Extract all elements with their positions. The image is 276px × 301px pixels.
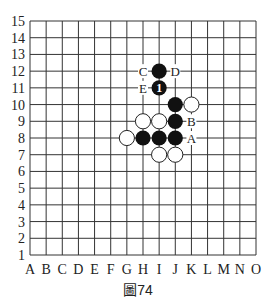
figure-caption: 圖74 <box>0 279 276 299</box>
row-label: 10 <box>11 98 25 113</box>
black-stone <box>152 130 167 145</box>
stone-number: 1 <box>156 81 162 95</box>
row-label: 2 <box>18 231 25 246</box>
column-label: A <box>25 262 36 275</box>
column-label: C <box>58 262 67 275</box>
black-stone <box>168 130 183 145</box>
black-stone <box>168 114 183 129</box>
white-stone <box>184 97 199 112</box>
row-label: 1 <box>18 248 25 263</box>
column-label: D <box>73 262 83 275</box>
row-label: 14 <box>11 31 25 46</box>
column-label: B <box>41 262 50 275</box>
marker-label-E: E <box>139 81 147 96</box>
row-label: 13 <box>11 47 25 62</box>
white-stone <box>119 130 134 145</box>
column-label: M <box>217 262 230 275</box>
column-label: L <box>203 262 212 275</box>
black-stone <box>168 97 183 112</box>
black-stone <box>152 64 167 79</box>
go-board: 123456789101112131415ABCDEFGHIJKLMNOCDEB… <box>0 0 276 275</box>
column-label: O <box>251 262 261 275</box>
column-label: J <box>173 262 179 275</box>
marker-label-A: A <box>187 131 197 146</box>
column-label: H <box>138 262 148 275</box>
row-label: 9 <box>18 114 25 129</box>
row-label: 15 <box>11 14 25 29</box>
column-label: I <box>157 262 162 275</box>
column-label: K <box>186 262 196 275</box>
black-stone <box>135 130 150 145</box>
row-label: 5 <box>18 181 25 196</box>
white-stone <box>152 114 167 129</box>
row-label: 12 <box>11 64 25 79</box>
row-label: 8 <box>18 131 25 146</box>
marker-label-B: B <box>187 114 196 129</box>
marker-label-C: C <box>139 64 148 79</box>
white-stone <box>168 147 183 162</box>
column-label: F <box>107 262 115 275</box>
marker-label-D: D <box>171 64 180 79</box>
white-stone <box>152 147 167 162</box>
row-label: 6 <box>18 164 25 179</box>
column-label: E <box>90 262 99 275</box>
row-label: 3 <box>18 215 25 230</box>
row-label: 4 <box>18 198 25 213</box>
column-label: N <box>235 262 245 275</box>
row-label: 11 <box>12 81 25 96</box>
row-label: 7 <box>18 148 25 163</box>
white-stone <box>135 114 150 129</box>
column-label: G <box>122 262 132 275</box>
